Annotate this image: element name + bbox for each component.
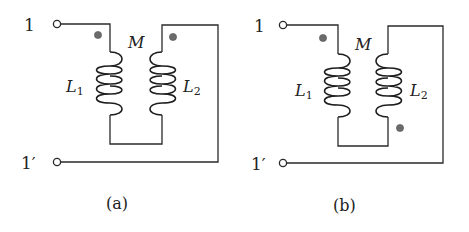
terminal-1prime-label: 1′	[251, 154, 266, 174]
inductor-l1-icon	[97, 52, 123, 115]
terminal-1-label: 1	[24, 15, 35, 35]
mutual-inductance-label: M	[354, 35, 372, 54]
wire-bottom-link	[338, 117, 388, 146]
polarity-dot-l2-icon	[169, 33, 176, 40]
terminal-1-icon	[53, 20, 60, 27]
wire-top-left	[287, 25, 338, 54]
wire-top-left	[61, 24, 110, 52]
terminal-1-label: 1	[254, 16, 265, 36]
panel-b: 1 1′ M L1 L2 (b)	[251, 16, 443, 215]
wire-bottom-link	[110, 115, 162, 144]
terminal-1prime-label: 1′	[21, 153, 36, 173]
inductor-l1-icon	[325, 54, 351, 117]
polarity-dot-l1-icon	[319, 34, 326, 41]
coupled-inductors-diagram: 1 1′ M L1 L2 (a) 1 1′	[0, 0, 469, 232]
polarity-dot-l2-icon	[396, 124, 403, 131]
terminal-1prime-icon	[279, 159, 286, 166]
terminal-1-icon	[279, 21, 286, 28]
panel-a: 1 1′ M L1 L2 (a)	[21, 15, 218, 213]
panel-caption-b: (b)	[333, 196, 356, 215]
polarity-dot-l1-icon	[94, 31, 101, 38]
inductor-l2-icon	[376, 54, 402, 117]
inductor-l2-icon	[150, 52, 176, 115]
inductor-l2-label: L2	[182, 77, 201, 98]
inductor-l1-label: L1	[65, 77, 84, 98]
inductor-l2-label: L2	[409, 81, 428, 102]
inductor-l1-label: L1	[294, 81, 313, 102]
panel-caption-a: (a)	[106, 194, 128, 213]
mutual-inductance-label: M	[127, 33, 145, 52]
terminal-1prime-icon	[53, 158, 60, 165]
